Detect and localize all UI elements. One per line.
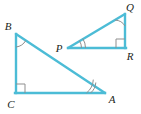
vertex-label-b: B bbox=[5, 20, 12, 32]
angle-tick-p-outer bbox=[83, 39, 86, 48]
figure-canvas: B C A P Q R bbox=[0, 0, 141, 114]
right-angle-marker-c bbox=[16, 84, 25, 93]
vertex-label-q: Q bbox=[126, 1, 134, 13]
vertex-label-p: P bbox=[55, 42, 63, 54]
right-angle-marker-r bbox=[116, 39, 125, 48]
angle-arc-b bbox=[16, 41, 26, 48]
vertex-label-a: A bbox=[108, 93, 116, 105]
vertex-label-r: R bbox=[126, 50, 134, 62]
vertex-label-c: C bbox=[7, 98, 15, 110]
triangle-pqr: P Q R bbox=[55, 1, 134, 62]
geometry-figure: B C A P Q R bbox=[0, 0, 141, 114]
angle-arc-q bbox=[115, 20, 125, 26]
triangle-abc: B C A bbox=[5, 20, 116, 110]
